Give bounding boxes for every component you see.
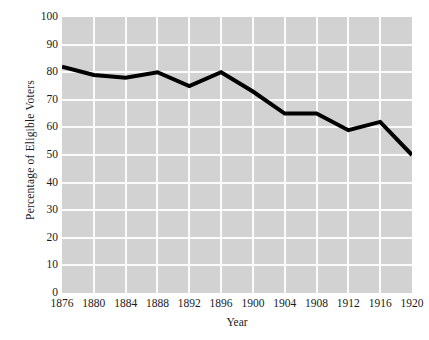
x-tick-label: 1876	[51, 296, 74, 310]
y-tick-label: 70	[30, 94, 58, 106]
x-tick-label: 1908	[305, 296, 328, 310]
x-tick-label: 1920	[401, 296, 424, 310]
y-tick-label: 100	[30, 11, 58, 23]
y-tick-label: 20	[30, 232, 58, 244]
data-series-line	[62, 17, 412, 293]
turnout-line	[62, 67, 412, 155]
plot-area	[62, 17, 412, 293]
x-tick-label: 1912	[337, 296, 360, 310]
y-tick-label: 40	[30, 177, 58, 189]
x-axis-title: Year	[62, 315, 412, 329]
x-tick-label: 1884	[114, 296, 137, 310]
x-tick-label: 1916	[369, 296, 392, 310]
y-axis-tick-labels: 0102030405060708090100	[30, 17, 58, 293]
y-tick-label: 80	[30, 66, 58, 78]
x-tick-label: 1904	[273, 296, 296, 310]
x-tick-label: 1896	[210, 296, 233, 310]
y-tick-label: 50	[30, 149, 58, 161]
y-tick-label: 90	[30, 39, 58, 51]
y-tick-label: 60	[30, 122, 58, 134]
x-axis-tick-labels: 1876188018841888189218961900190419081912…	[62, 296, 412, 312]
x-tick-label: 1900	[241, 296, 264, 310]
voter-turnout-line-chart: Percentage of Eligible Voters 0102030405…	[0, 0, 429, 340]
y-tick-label: 10	[30, 260, 58, 272]
y-tick-label: 30	[30, 204, 58, 216]
x-tick-label: 1888	[146, 296, 169, 310]
x-tick-label: 1880	[82, 296, 105, 310]
x-tick-label: 1892	[178, 296, 201, 310]
